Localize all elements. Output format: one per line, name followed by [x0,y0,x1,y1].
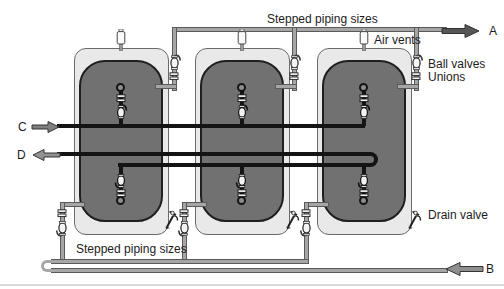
union-icon [178,209,190,218]
bottom-u-bend [41,260,53,272]
top-stub-1 [156,85,176,88]
drain-valve-icon [163,207,179,229]
ball-valve-icon [357,103,371,121]
tank-2-upper-port-icon [237,83,246,92]
union-icon [168,72,180,81]
ball-valve-icon [299,219,314,238]
stepped-piping-top-label: Stepped piping sizes [267,12,378,26]
union-icon [300,209,312,218]
drain-valve-label: Drain valve [428,208,488,222]
port-c-label: C [18,120,27,134]
stepped-piping-bottom-label: Stepped piping sizes [76,242,187,256]
ball-valve-icon [235,103,249,121]
union-icon [358,189,370,198]
union-icon [288,72,300,81]
port-a-label: A [489,24,497,38]
bottom-stub-2 [183,203,206,206]
ball-valve-icon [409,53,424,72]
arrow-a-icon [441,23,481,39]
arrow-d-icon [31,148,61,162]
bottom-return-pipe [52,269,447,272]
pipe-c-supply [57,124,365,128]
pipe-d-outlet [57,152,369,156]
piping-diagram: Stepped piping sizes Air vents Ball valv… [0,0,504,289]
top-stub-3 [398,85,418,88]
ball-valve-icon [55,219,70,238]
union-icon [410,72,422,81]
ball-valve-icon [287,53,302,72]
air-vent-icon [357,29,371,51]
union-icon [358,94,370,103]
air-vents-label: Air vents [374,33,421,47]
union-icon [56,209,68,218]
tank-1-upper-port-icon [116,83,125,92]
ball-valves-label: Ball valves [428,57,485,71]
drain-valve-icon [284,207,300,229]
arrow-b-icon [444,261,484,277]
union-icon [115,189,127,198]
air-vent-icon [235,29,249,51]
bottom-header-pipe [52,260,308,263]
ball-valve-icon [167,53,182,72]
union-icon [115,94,127,103]
ball-valve-icon [235,172,249,190]
bottom-stub-3 [305,203,328,206]
union-icon [236,189,248,198]
air-vent-icon [114,29,128,51]
port-d-label: D [17,148,26,162]
drain-valve-icon [406,207,422,229]
ball-valve-icon [114,103,128,121]
top-stub-2 [276,85,296,88]
unions-label: Unions [428,70,465,84]
port-b-label: B [486,262,494,276]
bottom-stub-1 [61,203,84,206]
bottom-page-rule [0,284,504,286]
ball-valve-icon [114,172,128,190]
ball-valve-icon [357,172,371,190]
arrow-c-icon [31,120,61,134]
union-icon [236,94,248,103]
ball-valve-icon [177,219,192,238]
top-header-pipe [173,28,446,31]
tank-3-upper-port-icon [359,83,368,92]
